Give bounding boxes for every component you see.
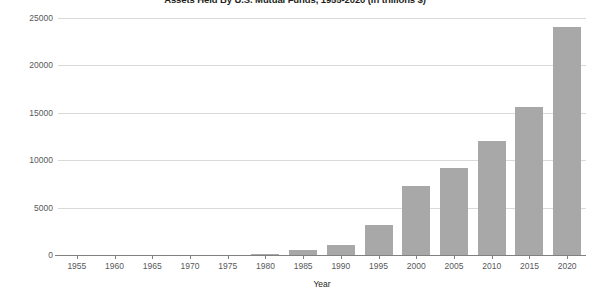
gridline [58, 160, 586, 161]
x-axis-tick-label: 1975 [218, 261, 237, 271]
x-axis-title: Year [58, 279, 586, 289]
x-axis-tick-label: 1985 [294, 261, 313, 271]
gridline [58, 18, 586, 19]
bar [553, 27, 581, 255]
x-axis-tick-mark [190, 255, 191, 259]
x-axis-tick-label: 1960 [105, 261, 124, 271]
y-axis-tick-label: 15000 [4, 108, 53, 118]
y-axis-tick-labels: 0500010000150002000025000 [0, 18, 53, 255]
x-axis-tick-mark [416, 255, 417, 259]
bar [365, 225, 393, 255]
x-axis-tick-label: 2005 [445, 261, 464, 271]
x-axis-tick-mark [492, 255, 493, 259]
x-axis: 1955196019651970197519801985199019952000… [58, 255, 586, 291]
gridline [58, 113, 586, 114]
x-axis-tick-label: 1980 [256, 261, 275, 271]
bar [515, 107, 543, 255]
x-axis-tick-mark [529, 255, 530, 259]
x-axis-tick-label: 1965 [143, 261, 162, 271]
x-axis-tick-mark [567, 255, 568, 259]
x-axis-tick-label: 1970 [181, 261, 200, 271]
bar [440, 168, 468, 255]
y-axis-tick-label: 5000 [4, 203, 53, 213]
x-axis-tick-label: 1955 [67, 261, 86, 271]
bar [327, 245, 355, 255]
x-axis-tick-mark [341, 255, 342, 259]
x-axis-tick-label: 1995 [369, 261, 388, 271]
gridline [58, 208, 586, 209]
y-axis-tick-label: 0 [4, 250, 53, 260]
x-axis-tick-label: 2000 [407, 261, 426, 271]
plot-area [58, 18, 586, 255]
x-axis-tick-label: 1990 [331, 261, 350, 271]
x-axis-tick-mark [115, 255, 116, 259]
gridline [58, 65, 586, 66]
x-axis-tick-label: 2015 [520, 261, 539, 271]
x-axis-tick-mark [77, 255, 78, 259]
x-axis-tick-mark [303, 255, 304, 259]
x-axis-tick-mark [265, 255, 266, 259]
x-axis-tick-mark [379, 255, 380, 259]
bar [402, 186, 430, 255]
x-axis-tick-mark [152, 255, 153, 259]
bar [478, 141, 506, 255]
chart-title: Assets Held By U.S. Mutual Funds, 1955-2… [0, 0, 590, 5]
x-axis-tick-mark [454, 255, 455, 259]
x-axis-tick-label: 2020 [558, 261, 577, 271]
x-axis-tick-mark [228, 255, 229, 259]
y-axis-tick-label: 10000 [4, 155, 53, 165]
y-axis-tick-label: 20000 [4, 60, 53, 70]
bar-chart: Assets Held By U.S. Mutual Funds, 1955-2… [0, 0, 590, 291]
y-axis-tick-label: 25000 [4, 13, 53, 23]
x-axis-tick-label: 2010 [482, 261, 501, 271]
